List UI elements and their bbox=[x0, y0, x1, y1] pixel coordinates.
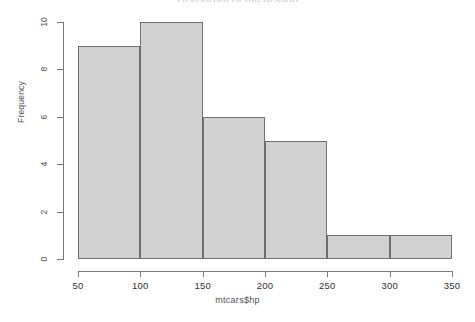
histogram-bar bbox=[78, 46, 140, 259]
y-tick-label: 0 bbox=[39, 248, 49, 270]
x-tick-label: 50 bbox=[58, 280, 98, 291]
x-tick-mark bbox=[327, 271, 328, 277]
x-tick-label: 250 bbox=[307, 280, 347, 291]
x-tick-label: 150 bbox=[183, 280, 223, 291]
y-tick-mark bbox=[57, 212, 63, 213]
histogram-bar bbox=[390, 235, 452, 259]
histogram-plot: Histogram of mtcars$hp Frequency mtcars$… bbox=[0, 0, 475, 322]
y-tick-mark bbox=[57, 69, 63, 70]
y-tick-label: 6 bbox=[39, 106, 49, 128]
x-tick-label: 200 bbox=[245, 280, 285, 291]
x-tick-mark bbox=[265, 271, 266, 277]
histogram-bar bbox=[265, 141, 327, 260]
y-tick-mark bbox=[57, 117, 63, 118]
chart-title: Histogram of mtcars$hp bbox=[0, 0, 475, 2]
x-axis-label: mtcars$hp bbox=[0, 295, 475, 305]
x-tick-label: 300 bbox=[370, 280, 410, 291]
x-tick-label: 100 bbox=[120, 280, 160, 291]
y-axis-line bbox=[63, 22, 64, 260]
y-tick-mark bbox=[57, 22, 63, 23]
x-tick-label: 350 bbox=[432, 280, 472, 291]
histogram-bar bbox=[140, 22, 202, 259]
y-tick-label: 10 bbox=[39, 11, 49, 33]
y-tick-mark bbox=[57, 259, 63, 260]
histogram-bar bbox=[327, 235, 389, 259]
y-tick-label: 8 bbox=[39, 58, 49, 80]
x-tick-mark bbox=[140, 271, 141, 277]
x-tick-mark bbox=[78, 271, 79, 277]
histogram-bar bbox=[203, 117, 265, 259]
x-tick-mark bbox=[390, 271, 391, 277]
y-tick-label: 2 bbox=[39, 201, 49, 223]
x-tick-mark bbox=[452, 271, 453, 277]
y-axis-label: Frequency bbox=[16, 107, 26, 123]
y-tick-mark bbox=[57, 164, 63, 165]
y-tick-label: 4 bbox=[39, 153, 49, 175]
x-tick-mark bbox=[203, 271, 204, 277]
